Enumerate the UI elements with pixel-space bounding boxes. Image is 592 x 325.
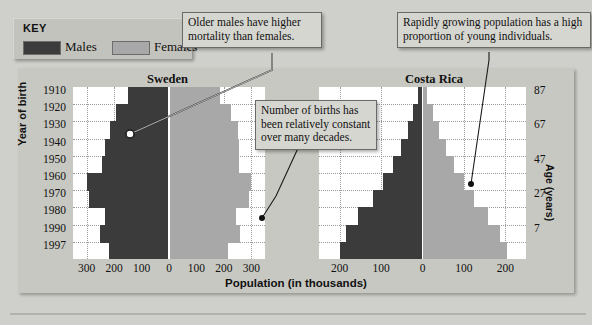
bar-male-1930 bbox=[110, 121, 169, 139]
y-tick-1920: 1920 bbox=[20, 101, 66, 113]
bar-male-1960 bbox=[87, 173, 169, 191]
bar-male-1980 bbox=[358, 207, 422, 225]
bar-male-1970 bbox=[373, 190, 423, 208]
x-tick-300-0: 300 bbox=[72, 262, 102, 274]
bar-female-1997 bbox=[423, 242, 508, 259]
bar-female-1950 bbox=[423, 156, 454, 174]
bar-female-1930 bbox=[169, 121, 238, 139]
y-tick-1960: 1960 bbox=[20, 170, 66, 182]
bar-male-1950 bbox=[102, 156, 169, 174]
x-tick-200-0: 200 bbox=[325, 262, 355, 274]
y-tick-1997: 1997 bbox=[20, 239, 66, 251]
page-bottom-rule bbox=[10, 313, 586, 315]
bar-female-1940 bbox=[423, 139, 446, 157]
plot-area-sweden bbox=[73, 87, 265, 259]
y-tick-1990: 1990 bbox=[20, 222, 66, 234]
bar-female-1920 bbox=[169, 104, 231, 122]
bar-female-1930 bbox=[423, 121, 440, 139]
x-tick-0-2: 0 bbox=[408, 262, 438, 274]
x-tick-100-1: 100 bbox=[366, 262, 396, 274]
bar-male-1940 bbox=[105, 139, 169, 157]
legend-label-males: Males bbox=[65, 39, 97, 55]
legend-swatch-females bbox=[112, 41, 150, 55]
bar-female-1997 bbox=[169, 242, 228, 259]
age-tick-7: 7 bbox=[534, 222, 540, 234]
gridline-v bbox=[251, 87, 252, 259]
legend-title: KEY bbox=[23, 22, 47, 34]
bar-female-1950 bbox=[169, 156, 239, 174]
center-axis-line bbox=[422, 87, 424, 259]
y-tick-1970: 1970 bbox=[20, 187, 66, 199]
x-tick-100-2: 100 bbox=[127, 262, 157, 274]
bar-female-1970 bbox=[169, 190, 249, 208]
legend-swatch-males bbox=[23, 41, 61, 55]
age-tick-87: 87 bbox=[534, 84, 546, 96]
callout-rapid-growth: Rapidly growing population has a high pr… bbox=[397, 12, 591, 48]
age-tick-27: 27 bbox=[534, 187, 546, 199]
bar-female-1980 bbox=[423, 207, 488, 225]
legend-key-box: KEY Males Females bbox=[13, 18, 192, 59]
callout-older-males-mortality: Older males have higher mortality than f… bbox=[182, 12, 322, 48]
bar-female-1910 bbox=[169, 87, 220, 105]
bar-female-1940 bbox=[169, 139, 239, 157]
bar-female-1960 bbox=[423, 173, 464, 191]
bar-male-1930 bbox=[408, 121, 423, 139]
x-tick-200-4: 200 bbox=[490, 262, 520, 274]
bar-male-1950 bbox=[393, 156, 423, 174]
chart-title-costa-rica: Costa Rica bbox=[405, 72, 463, 87]
x-tick-300-6: 300 bbox=[236, 262, 266, 274]
bar-female-1980 bbox=[169, 207, 236, 225]
bar-male-1940 bbox=[401, 139, 423, 157]
x-tick-200-5: 200 bbox=[209, 262, 239, 274]
bar-male-1990 bbox=[100, 225, 169, 243]
bar-male-1910 bbox=[128, 87, 169, 105]
bar-male-1980 bbox=[105, 207, 169, 225]
bar-female-1920 bbox=[423, 104, 433, 122]
x-tick-200-1: 200 bbox=[99, 262, 129, 274]
bar-male-1960 bbox=[383, 173, 422, 191]
x-tick-100-3: 100 bbox=[449, 262, 479, 274]
bar-female-1990 bbox=[169, 225, 240, 243]
center-axis-line bbox=[168, 87, 170, 259]
callout-births-constant: Number of births has been relatively con… bbox=[255, 100, 377, 150]
y-tick-1910: 1910 bbox=[20, 84, 66, 96]
chart-title-sweden: Sweden bbox=[147, 72, 188, 87]
x-tick-0-3: 0 bbox=[154, 262, 184, 274]
x-tick-100-4: 100 bbox=[181, 262, 211, 274]
bar-male-1920 bbox=[116, 104, 169, 122]
y-tick-1950: 1950 bbox=[20, 153, 66, 165]
bar-male-1997 bbox=[340, 242, 423, 259]
age-tick-67: 67 bbox=[534, 118, 546, 130]
x-axis-title: Population (in thousands) bbox=[18, 277, 574, 289]
y-tick-1940: 1940 bbox=[20, 136, 66, 148]
y-tick-1930: 1930 bbox=[20, 118, 66, 130]
bar-male-1970 bbox=[89, 190, 169, 208]
gridline-v bbox=[505, 87, 506, 259]
bar-female-1990 bbox=[423, 225, 501, 243]
bar-female-1970 bbox=[423, 190, 475, 208]
bar-male-1997 bbox=[109, 242, 169, 259]
bar-female-1960 bbox=[169, 173, 251, 191]
age-tick-47: 47 bbox=[534, 153, 546, 165]
y-tick-1980: 1980 bbox=[20, 204, 66, 216]
bar-male-1990 bbox=[346, 225, 423, 243]
